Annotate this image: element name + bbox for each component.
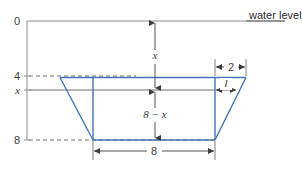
axis-tick-label-4: 4 [14,70,20,82]
trough-diagram-svg: water level 0 4 x 8 [0,0,302,170]
dimension-8-minus-x-group: 8 − x [138,92,172,138]
trough-left-slant [60,78,93,141]
guide-lines [29,76,215,140]
dimension-x-label: x [152,49,158,61]
figure-container: water level 0 4 x 8 [0,0,302,170]
dimension-l-label: l [224,77,227,89]
dimension-8-group: 8 [93,141,215,160]
axis-tick-label-x: x [14,84,20,96]
dimension-8-label: 8 [151,145,157,157]
dimension-2-label: 2 [228,61,234,73]
axis-tick-label-0: 0 [14,15,20,27]
axis-tick-label-8: 8 [14,134,20,146]
water-level-label: water level [248,9,302,21]
dimension-2-group: 2 [215,59,246,76]
dimension-8-minus-x-label: 8 − x [143,108,166,120]
dimension-l-group: l [216,77,236,90]
dimension-x-group: x [148,23,162,88]
